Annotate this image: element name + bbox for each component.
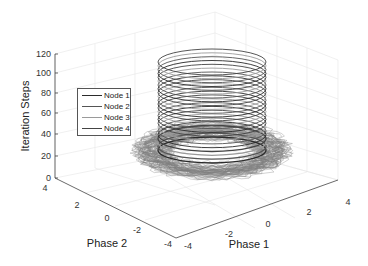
3d-helix-chart: 120 100 80 60 40 20 0 4 2 0 -2 -4 -4 -2 … — [0, 0, 368, 266]
legend-swatch — [82, 95, 102, 96]
svg-text:80: 80 — [41, 88, 51, 98]
legend-item-node-3: Node 3 — [78, 112, 130, 123]
legend-label: Node 2 — [104, 101, 130, 112]
svg-text:20: 20 — [41, 151, 51, 161]
svg-text:120: 120 — [36, 49, 51, 59]
svg-text:0: 0 — [265, 219, 270, 229]
phase2-axis-label: Phase 2 — [87, 237, 127, 249]
z-ticks — [55, 54, 58, 178]
axes — [55, 54, 338, 238]
legend-item-node-4: Node 4 — [78, 123, 130, 134]
legend-item-node-1: Node 1 — [78, 90, 130, 101]
legend-swatch — [82, 117, 102, 118]
z-tick-labels: 120 100 80 60 40 20 0 — [36, 49, 51, 183]
svg-text:-2: -2 — [133, 225, 141, 235]
svg-text:4: 4 — [42, 183, 47, 193]
svg-text:-4: -4 — [164, 239, 172, 249]
legend-label: Node 1 — [104, 90, 130, 101]
legend: Node 1 Node 2 Node 3 Node 4 — [77, 88, 131, 136]
legend-item-node-2: Node 2 — [78, 101, 130, 112]
legend-swatch — [82, 128, 102, 129]
legend-label: Node 3 — [104, 112, 130, 123]
svg-text:-4: -4 — [184, 241, 192, 251]
svg-text:100: 100 — [36, 68, 51, 78]
phase1-axis-label: Phase 1 — [229, 238, 269, 250]
svg-text:0: 0 — [104, 213, 109, 223]
svg-text:4: 4 — [345, 197, 350, 207]
svg-text:2: 2 — [74, 200, 79, 210]
legend-swatch — [82, 106, 102, 107]
phase2-axis — [55, 178, 176, 238]
z-axis-label: Iteration Steps — [19, 80, 31, 151]
phase1-axis — [176, 180, 338, 238]
legend-label: Node 4 — [104, 123, 130, 134]
svg-text:2: 2 — [306, 207, 311, 217]
svg-text:60: 60 — [41, 108, 51, 118]
svg-text:0: 0 — [46, 173, 51, 183]
svg-text:40: 40 — [41, 129, 51, 139]
